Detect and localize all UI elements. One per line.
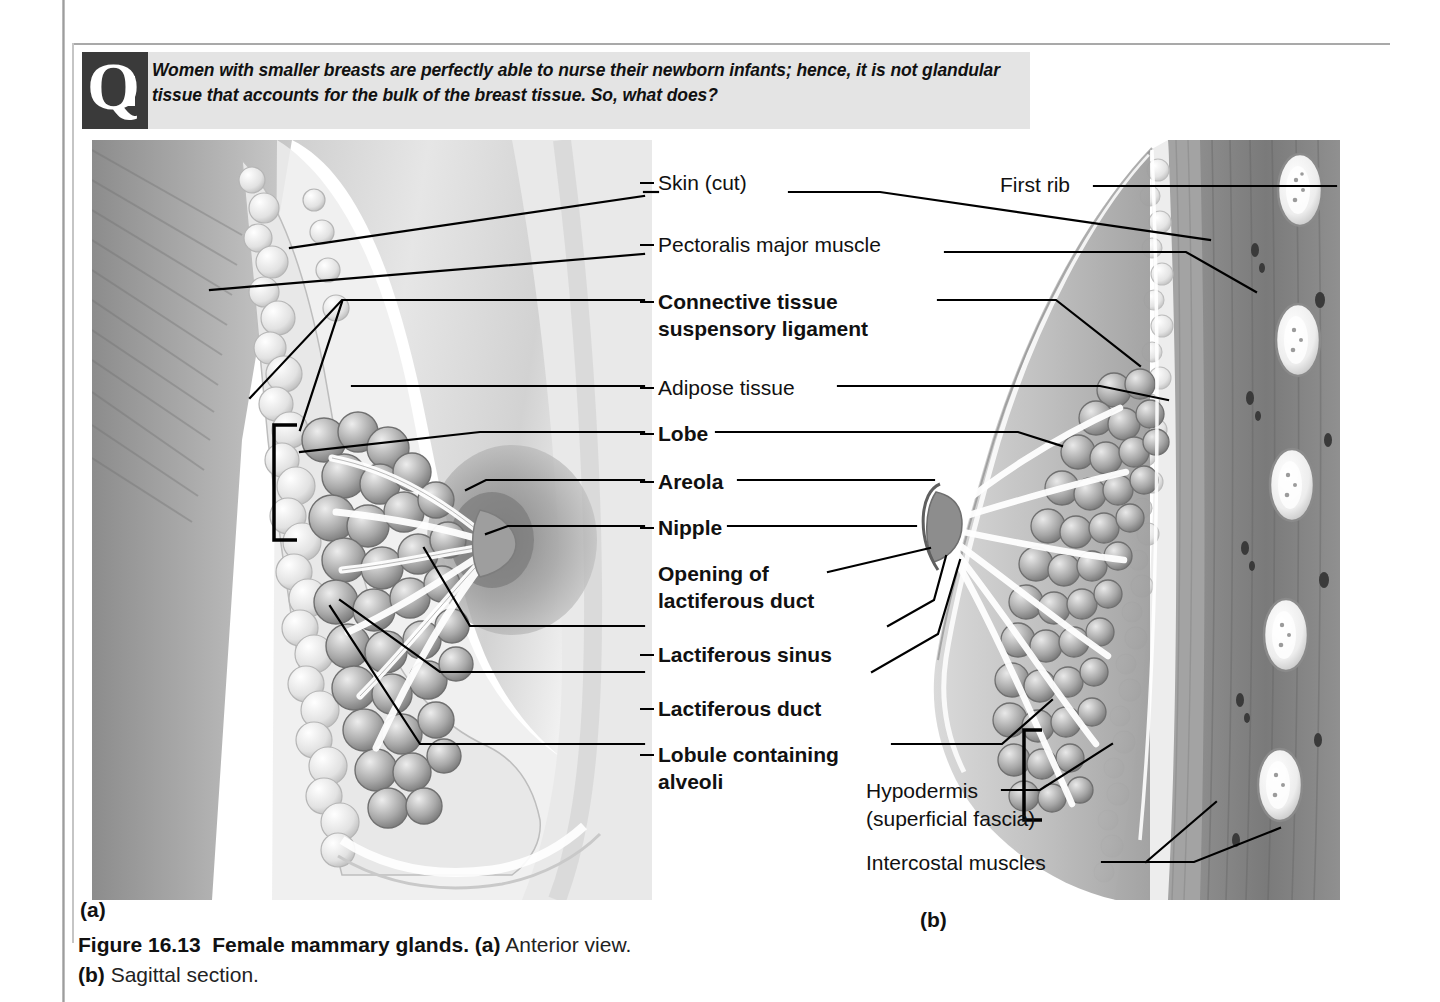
leader-dash-pectoralis (640, 244, 654, 246)
label-pectoralis-major-muscle: Pectoralis major muscle (658, 232, 881, 257)
label-areola: Areola (658, 469, 723, 494)
colon-dot-top (126, 76, 135, 85)
label-opening-lactiferous-duct-line1: Opening of (658, 561, 769, 586)
leader-dash-lactiferous-duct (640, 708, 654, 710)
leader-dash-lobule-1 (640, 754, 654, 756)
caption-part-b-letter: (b) (78, 963, 105, 986)
label-first-rib: First rib (1000, 172, 1070, 197)
label-lactiferous-sinus: Lactiferous sinus (658, 642, 832, 667)
label-lactiferous-duct: Lactiferous duct (658, 696, 821, 721)
label-lobule-alveoli-line2: alveoli (658, 769, 723, 794)
leader-dash-adipose (640, 387, 654, 389)
panel-letter-a: (a) (80, 898, 106, 922)
label-opening-lactiferous-duct-line2: lactiferous duct (658, 588, 814, 613)
question-text: Women with smaller breasts are perfectly… (152, 58, 1022, 108)
caption-part-a-letter: (a) (475, 933, 501, 956)
page-gutter-shadow (62, 0, 65, 1002)
label-lobule-alveoli-line1: Lobule containing (658, 742, 839, 767)
label-connective-tissue-line1: Connective tissue (658, 289, 838, 314)
caption-part-a-text: Anterior view. (505, 933, 631, 956)
caption-title: Female mammary glands. (212, 933, 469, 956)
caption-figure-number: Figure 16.13 (78, 933, 201, 956)
anterior-view-illustration (92, 140, 652, 900)
figure-top-rule (72, 43, 1390, 45)
colon-dot-bottom (126, 97, 135, 106)
label-hypodermis-line2: (superficial fascia) (866, 806, 1035, 831)
leader-dash-connective-1 (640, 301, 654, 303)
label-adipose-tissue: Adipose tissue (658, 375, 795, 400)
figure-caption: Figure 16.13 Female mammary glands. (a) … (78, 930, 978, 990)
label-lobe: Lobe (658, 421, 708, 446)
question-marker: Q (82, 52, 148, 129)
caption-part-b-text: Sagittal section. (111, 963, 259, 986)
textbook-figure-page: Q Women with smaller breasts are perfect… (0, 0, 1440, 1002)
label-hypodermis-line1: Hypodermis (866, 778, 978, 803)
panel-letter-b: (b) (920, 908, 947, 932)
leader-dash-skin-cut (640, 182, 654, 184)
question-letter: Q (87, 48, 140, 125)
label-skin-cut: Skin (cut) (658, 170, 747, 195)
label-intercostal-muscles: Intercostal muscles (866, 850, 1046, 875)
leader-dash-nipple (640, 527, 654, 529)
leader-dash-lobe (640, 433, 654, 435)
leader-dash-areola (640, 481, 654, 483)
leader-dash-lactiferous-sinus (640, 654, 654, 656)
figure-left-rule (72, 43, 74, 943)
label-connective-tissue-line2: suspensory ligament (658, 316, 868, 341)
label-nipple: Nipple (658, 515, 722, 540)
